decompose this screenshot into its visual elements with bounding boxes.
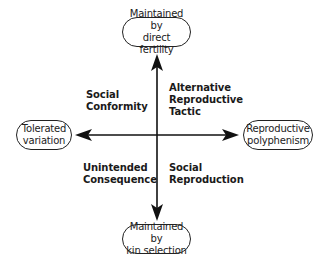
- node-top-line1: Maintained by: [126, 8, 187, 32]
- node-left-line2: variation: [22, 135, 66, 147]
- quadrant-top-left-line1: Social: [86, 89, 148, 101]
- quadrant-top-right-line1: Alternative: [169, 82, 243, 94]
- node-right-reproductive-polyphenism: Reproductive polyphenism: [243, 120, 313, 150]
- quadrant-bottom-right-line2: Reproduction: [169, 174, 244, 186]
- node-bottom-line1: Maintained by: [126, 221, 187, 245]
- quadrant-bottom-right-line1: Social: [169, 162, 244, 174]
- quadrant-top-right-line3: Tactic: [169, 106, 243, 118]
- node-right-line1: Reproductive: [246, 123, 310, 135]
- quadrant-top-left-line2: Conformity: [86, 101, 148, 113]
- node-left-line1: Tolerated: [22, 123, 66, 135]
- quadrant-top-right-label: Alternative Reproductive Tactic: [169, 82, 243, 118]
- node-top-line2: direct fertility: [126, 32, 187, 56]
- quadrant-bottom-left-label: Unintended Consequence: [83, 162, 157, 186]
- quadrant-bottom-left-line2: Consequence: [83, 174, 157, 186]
- node-bottom-kin-selection: Maintained by kin selection: [122, 224, 191, 254]
- quadrant-top-right-line2: Reproductive: [169, 94, 243, 106]
- node-top-direct-fertility: Maintained by direct fertility: [122, 17, 191, 47]
- node-left-tolerated-variation: Tolerated variation: [16, 120, 72, 150]
- node-bottom-line2: kin selection: [126, 245, 187, 257]
- quadrant-top-left-label: Social Conformity: [86, 89, 148, 113]
- quadrant-bottom-right-label: Social Reproduction: [169, 162, 244, 186]
- quadrant-bottom-left-line1: Unintended: [83, 162, 157, 174]
- node-right-line2: polyphenism: [246, 135, 310, 147]
